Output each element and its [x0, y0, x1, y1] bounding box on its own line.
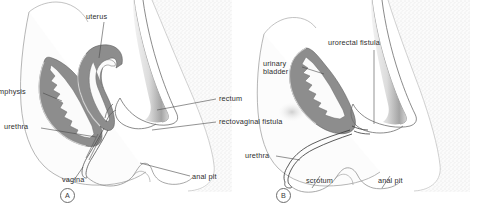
panel-b-body-mass: [388, 0, 470, 192]
label-vagina-a: vagina: [62, 176, 84, 184]
label-rectovaginal-fistula-a: rectovaginal fistula: [219, 118, 282, 126]
label-anal-pit-a: anal pit: [192, 173, 217, 181]
label-rectum-a: rectum: [219, 95, 242, 103]
panel-a-illustration: [20, 0, 232, 192]
label-urethra-a: urethra: [4, 123, 28, 131]
label-urinary-bladder-b: urinary bladder: [263, 60, 303, 77]
label-anal-pit-b: anal pit: [378, 177, 403, 185]
anatomical-figure: uterus mphysis urethra vagina rectum rec…: [0, 0, 481, 209]
label-symphysis-a: mphysis: [0, 88, 26, 96]
panel-letter-a: A: [60, 188, 75, 203]
panel-b-abdominal-lip: [264, 17, 316, 34]
label-urinary-bladder-line2: bladder: [263, 67, 288, 76]
label-urorectal-fistula-b: urorectal fistula: [328, 39, 380, 47]
label-scrotum-b: scrotum: [306, 177, 333, 185]
panel-a-abdominal-lip: [29, 2, 88, 22]
label-uterus-a: uterus: [86, 13, 107, 21]
label-urethra-b: urethra: [245, 152, 269, 160]
panel-letter-b: B: [276, 188, 291, 203]
panel-b-illustration: [257, 0, 470, 192]
